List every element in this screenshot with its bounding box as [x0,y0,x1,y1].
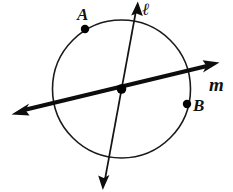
line-m-label: m [209,74,224,95]
point-a-dot [81,25,89,33]
intersection-point-dot [117,84,127,94]
line-m [24,66,208,110]
geometry-diagram: A B ℓ m [0,0,233,192]
geometry-canvas: A B ℓ m [0,0,233,192]
point-b-dot [183,100,191,108]
arrowhead-l-bottom [98,175,109,190]
point-a-label: A [76,5,88,24]
point-b-label: B [192,96,204,115]
line-l-label: ℓ [142,0,149,19]
line-l [105,8,137,182]
